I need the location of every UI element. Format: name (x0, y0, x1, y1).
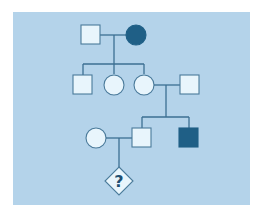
female-affected-I-2 (126, 25, 146, 45)
female-unaffected-II-2 (104, 75, 124, 95)
question-mark-label: ? (114, 172, 123, 191)
pedigree-chart: ? (0, 0, 262, 214)
male-unaffected-I-1 (81, 25, 100, 44)
male-unaffected-II-1 (73, 75, 92, 94)
male-affected-III-3 (179, 128, 198, 147)
female-unaffected-II-3 (134, 75, 154, 95)
male-unaffected-III-2 (132, 128, 151, 147)
female-unaffected-III-1 (86, 128, 106, 148)
male-unaffected-II-4 (180, 75, 199, 94)
